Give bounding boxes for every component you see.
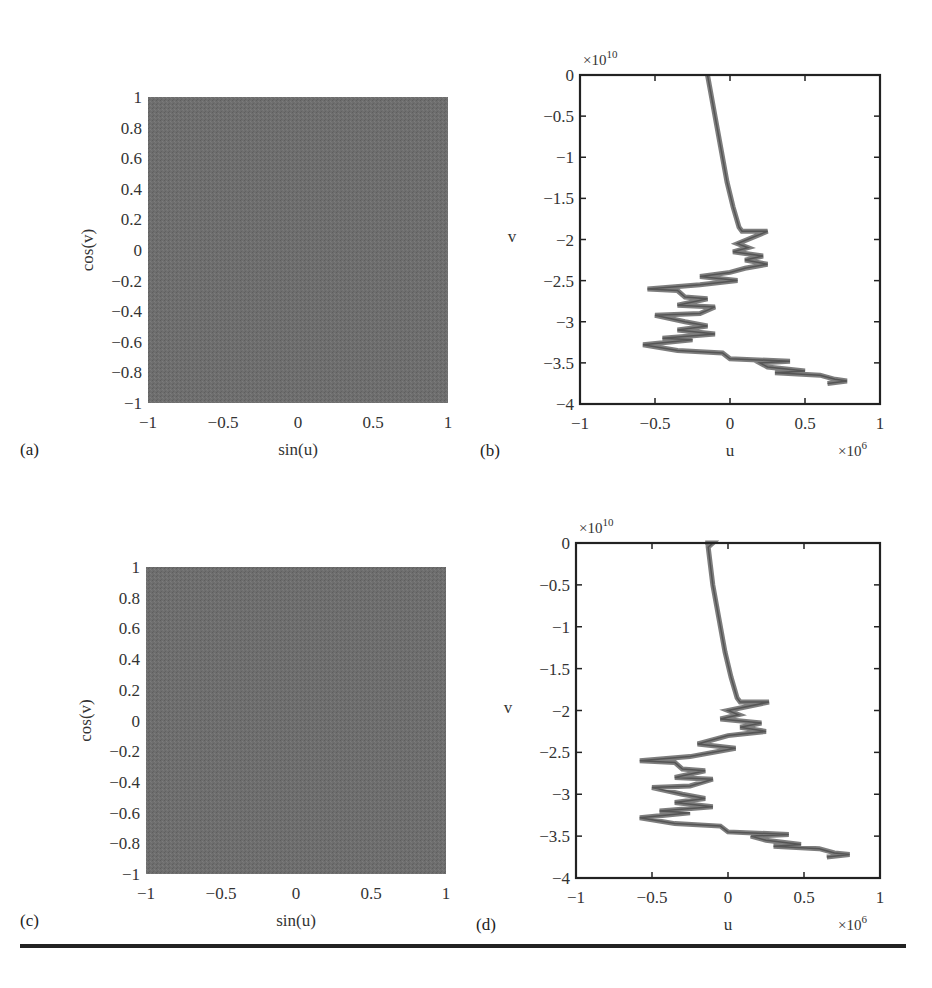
x-tick-label: −0.5 <box>206 884 237 903</box>
y-tick-label: −1 <box>556 148 574 167</box>
x-tick-label: 0.5 <box>794 414 815 433</box>
panel-c-scatter-plot: −1−0.500.5110.80.60.40.20−0.2−0.4−0.6−0.… <box>20 558 450 930</box>
y-tick-label: −1 <box>552 618 570 637</box>
y-tick-label: −0.6 <box>111 333 142 352</box>
x-tick-label: −1 <box>571 414 589 433</box>
y-tick-label: 0 <box>132 712 141 731</box>
y-tick-label: −2 <box>556 231 574 250</box>
panel-label: (c) <box>20 911 39 930</box>
x-axis-label: u <box>726 441 735 460</box>
y-tick-label: −3 <box>556 313 574 332</box>
y-axis-label: v <box>508 227 517 246</box>
y-axis-label: cos(v) <box>76 699 95 741</box>
y-tick-label: −0.8 <box>109 834 140 853</box>
x-tick-label: 0.5 <box>793 888 814 907</box>
x-tick-label: 0 <box>724 888 733 907</box>
y-tick-label: −3 <box>552 785 570 804</box>
y-tick-label: −0.6 <box>109 804 140 823</box>
y-tick-label: −0.2 <box>109 742 140 761</box>
y-tick-label: −2.5 <box>539 743 570 762</box>
y-tick-label: −0.2 <box>111 272 142 291</box>
x-tick-label: −1 <box>139 413 157 432</box>
x-exponent-label: ×106 <box>838 439 867 459</box>
y-axis-label: cos(v) <box>78 229 97 271</box>
x-tick-label: 0 <box>292 884 301 903</box>
y-tick-label: 0.8 <box>119 589 140 608</box>
x-tick-label: −1 <box>137 884 155 903</box>
x-tick-label: 0.5 <box>360 884 381 903</box>
y-axis-label: v <box>504 698 513 717</box>
x-tick-label: 1 <box>444 413 453 432</box>
panel-label: (a) <box>20 440 39 459</box>
x-tick-label: −1 <box>567 888 585 907</box>
panel-label: (d) <box>476 915 496 934</box>
x-tick-label: 0 <box>726 414 735 433</box>
y-tick-label: 0.4 <box>119 650 141 669</box>
x-tick-label: −0.5 <box>640 414 671 433</box>
y-tick-label: −0.5 <box>543 107 574 126</box>
x-tick-label: 1 <box>442 884 451 903</box>
x-exponent-label: ×106 <box>838 913 867 933</box>
axes-frame <box>580 75 880 404</box>
y-tick-label: −1 <box>124 394 142 413</box>
x-tick-label: −0.5 <box>208 413 239 432</box>
panel-b-trajectory-plot: −1−0.500.510−0.5−1−1.5−2−2.5−3−3.5−4uv×1… <box>480 48 884 460</box>
y-tick-label: 0.2 <box>119 681 140 700</box>
y-tick-label: −0.4 <box>111 302 142 321</box>
y-tick-label: −2 <box>552 702 570 721</box>
y-tick-label: −1.5 <box>543 189 574 208</box>
y-tick-label: 0.6 <box>121 149 142 168</box>
y-tick-label: −0.8 <box>111 363 142 382</box>
point-cloud-area <box>146 567 446 874</box>
y-tick-label: −3.5 <box>543 354 574 373</box>
x-tick-label: 0.5 <box>362 413 383 432</box>
x-axis-label: sin(u) <box>276 911 316 930</box>
y-tick-label: −4 <box>556 395 575 414</box>
panel-label: (b) <box>480 441 500 460</box>
y-tick-label: 0 <box>566 66 575 85</box>
x-axis-label: sin(u) <box>278 440 318 459</box>
y-tick-label: 1 <box>132 558 141 577</box>
y-tick-label: −1 <box>122 865 140 884</box>
figure-canvas: −1−0.500.5110.80.60.40.20−0.2−0.4−0.6−0.… <box>0 0 932 988</box>
y-tick-label: 0 <box>134 241 143 260</box>
y-tick-label: −4 <box>552 869 571 888</box>
y-tick-label: −0.5 <box>539 576 570 595</box>
y-tick-label: −1.5 <box>539 660 570 679</box>
y-tick-label: −0.4 <box>109 773 140 792</box>
x-tick-label: 0 <box>294 413 303 432</box>
y-tick-label: 0.4 <box>121 180 143 199</box>
panel-a-scatter-plot: −1−0.500.5110.80.60.40.20−0.2−0.4−0.6−0.… <box>20 88 452 459</box>
x-tick-label: 1 <box>876 888 885 907</box>
panel-d-trajectory-plot: −1−0.500.510−0.5−1−1.5−2−2.5−3−3.5−4uv×1… <box>476 516 884 934</box>
y-tick-label: −2.5 <box>543 272 574 291</box>
y-tick-label: 0.6 <box>119 619 140 638</box>
x-tick-label: 1 <box>876 414 885 433</box>
y-tick-label: 0.8 <box>121 119 142 138</box>
x-tick-label: −0.5 <box>637 888 668 907</box>
point-cloud-area <box>148 97 448 403</box>
y-tick-label: 1 <box>134 88 143 107</box>
x-axis-label: u <box>724 915 733 934</box>
y-exponent-label: ×1010 <box>579 516 614 536</box>
y-tick-label: 0.2 <box>121 210 142 229</box>
y-tick-label: 0 <box>562 534 571 553</box>
y-exponent-label: ×1010 <box>583 48 618 68</box>
y-tick-label: −3.5 <box>539 827 570 846</box>
